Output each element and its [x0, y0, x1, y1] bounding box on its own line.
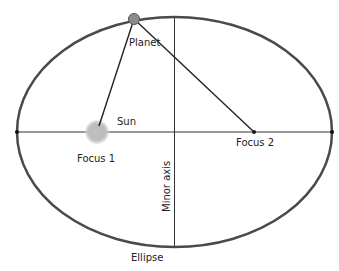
vertex-right-dot — [330, 130, 334, 134]
minor-axis-label: Minor axis — [161, 161, 172, 212]
planet-to-focus1-line — [99, 19, 134, 126]
planet-icon — [129, 14, 140, 25]
sun-icon — [84, 119, 110, 145]
planet-label: Planet — [129, 37, 160, 48]
planet-to-focus2-line — [134, 19, 254, 132]
focus1-label: Focus 1 — [77, 153, 115, 164]
sun-label: Sun — [117, 116, 136, 127]
vertex-left-dot — [15, 130, 19, 134]
ellipse-label: Ellipse — [131, 252, 163, 263]
orbit-diagram: Planet Sun Focus 1 Focus 2 Minor axis El… — [0, 0, 339, 271]
focus2-label: Focus 2 — [236, 137, 274, 148]
